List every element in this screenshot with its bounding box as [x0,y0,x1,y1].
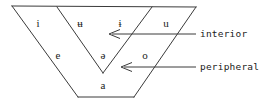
trapezoid-top-edge [12,6,196,7]
vowel-label-barred-u: ʉ [77,18,83,29]
interior-arrow [109,30,196,39]
trapezoid-left-edge [12,6,78,97]
vowel-label-a: a [101,80,106,91]
vowel-label-o: o [142,50,148,61]
vowel-space-figure: i ʉ ɨ u e ə o a interior peripheral [0,0,272,109]
vowel-label-i: i [36,18,39,29]
annotation-interior: interior [200,29,247,39]
interior-right-edge [103,7,152,73]
interior-triangle-outline [57,7,152,73]
vowel-label-e: e [56,50,61,61]
vowel-label-u: u [163,18,169,29]
peripheral-arrow [121,63,196,72]
vowel-label-barred-i: ɨ [118,18,121,29]
annotation-peripheral: peripheral [200,62,259,72]
vowel-diagram-svg [0,0,272,109]
vowel-label-schwa: ə [101,50,106,61]
